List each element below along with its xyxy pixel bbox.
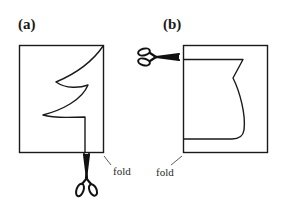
panel-b-fold-leader-line [171, 156, 182, 165]
panel-a-drawing [20, 46, 112, 198]
panel-b-label: (b) [163, 17, 181, 32]
scissors-icon [137, 47, 179, 66]
panel-b-vase-outline [184, 60, 245, 140]
panel-a-fold-label: fold [113, 166, 131, 177]
diagram-canvas [0, 0, 299, 211]
panel-a-fold-leader-line [104, 156, 111, 165]
panel-b-paper-outline [184, 46, 268, 153]
panel-b-fold-label: fold [156, 167, 174, 178]
panel-a-paper-outline [20, 46, 104, 153]
figure-diagram: (a) fold (b) fold [0, 0, 299, 211]
panel-b-drawing [137, 46, 267, 166]
panel-a-label: (a) [18, 17, 36, 32]
scissors-icon [74, 154, 98, 197]
panel-a-tree-outline [43, 46, 104, 153]
